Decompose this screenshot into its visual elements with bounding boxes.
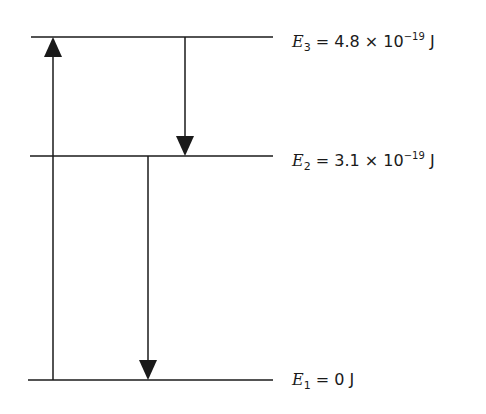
- subscript: 2: [304, 160, 311, 173]
- subscript: 3: [304, 41, 311, 54]
- equals-sign: =: [316, 151, 329, 170]
- unit: J: [430, 151, 435, 170]
- energy-symbol: E: [292, 32, 304, 51]
- equals-sign: =: [316, 370, 329, 389]
- subscript: 1: [304, 379, 311, 392]
- energy-symbol: E: [292, 370, 304, 389]
- energy-symbol: E: [292, 151, 304, 170]
- energy-value: 3.1 × 10: [334, 151, 403, 170]
- exponent: −19: [404, 31, 425, 42]
- level-label-e2: E2 = 3.1 × 10−19 J: [292, 146, 435, 177]
- level-label-e3: E3 = 4.8 × 10−19 J: [292, 27, 435, 58]
- level-label-e1: E1 = 0 J: [292, 370, 354, 396]
- arrowhead-down-icon: [139, 360, 157, 380]
- equals-sign: =: [316, 32, 329, 51]
- energy-level-diagram: [0, 0, 486, 414]
- unit: J: [430, 32, 435, 51]
- unit: J: [350, 370, 355, 389]
- energy-value: 4.8 × 10: [334, 32, 403, 51]
- exponent: −19: [404, 150, 425, 161]
- arrowhead-down-icon: [176, 136, 194, 156]
- energy-value: 0: [334, 370, 344, 389]
- arrowhead-up-icon: [44, 37, 62, 57]
